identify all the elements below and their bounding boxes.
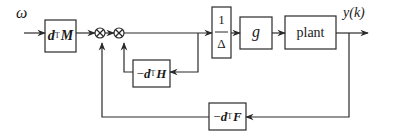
summing-junction-1 xyxy=(95,28,105,38)
block-inv-delta-numerator: 1 xyxy=(212,11,231,29)
block-plant-label: plant xyxy=(285,16,336,49)
block-dTM-label: dTM xyxy=(45,20,76,52)
block-neg-dTH-label: −dTH xyxy=(133,60,170,87)
block-inv-delta-denominator: Δ xyxy=(212,35,231,53)
inner-feedback-return xyxy=(124,43,133,72)
block-neg-dTF-label: −dTF xyxy=(209,103,246,130)
summing-junction-2 xyxy=(114,28,124,38)
inner-feedback-path xyxy=(170,33,198,72)
input-label-omega: ω xyxy=(16,4,27,22)
block-g-label: g xyxy=(240,16,272,48)
output-label-yk: y(k) xyxy=(343,5,365,21)
